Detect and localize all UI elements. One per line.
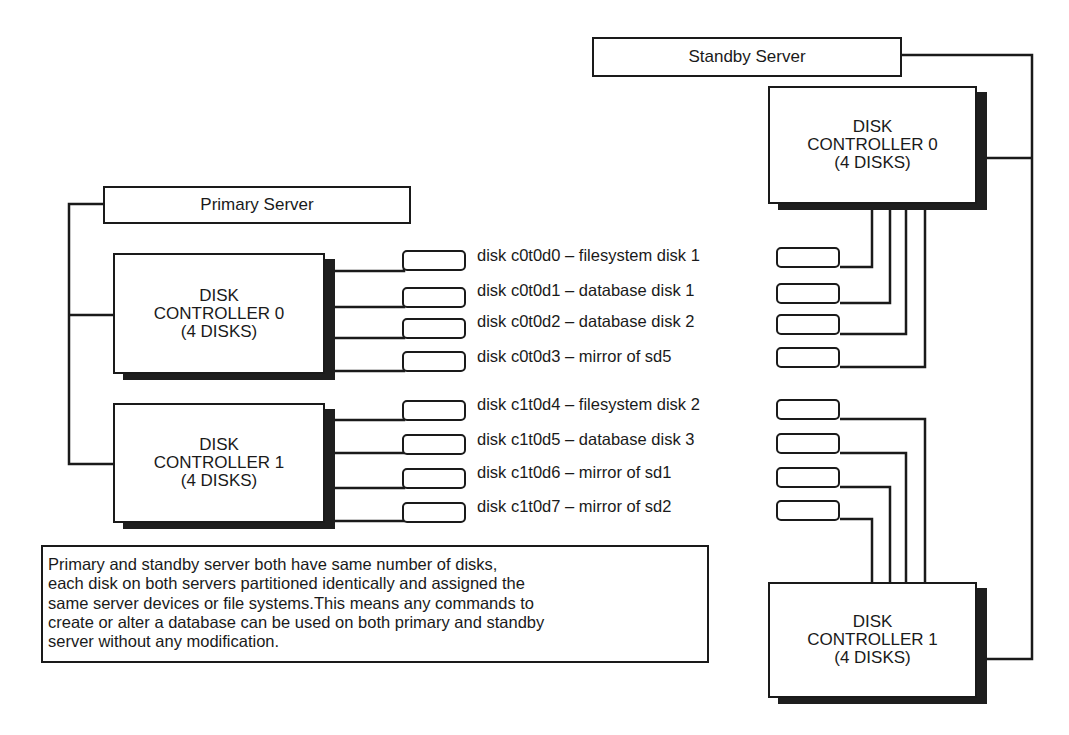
standby-disk-0-icon [776, 247, 840, 268]
primary-disk-5-icon [402, 434, 466, 455]
primary-disk-1-icon [402, 287, 466, 308]
controller-title: DISK [853, 613, 893, 631]
note-line: Primary and standby server both have sam… [48, 555, 701, 574]
standby-disk-1-icon [776, 283, 840, 304]
primary-controller-1: DISK CONTROLLER 1 (4 DISKS) [113, 403, 325, 523]
controller-title: DISK [199, 436, 239, 454]
primary-disk-7-icon [402, 502, 466, 523]
standby-controller-0: DISK CONTROLLER 0 (4 DISKS) [768, 86, 977, 204]
controller-title: DISK [853, 118, 893, 136]
disk-label-c1t0d6: disk c1t0d6 – mirror of sd1 [477, 462, 671, 482]
primary-disk-6-icon [402, 468, 466, 489]
standby-disk-4-icon [776, 399, 840, 420]
controller-name: CONTROLLER 0 [154, 305, 284, 323]
disk-label-c0t0d3: disk c0t0d3 – mirror of sd5 [477, 346, 671, 366]
primary-disk-4-icon [402, 400, 466, 421]
primary-disk-0-icon [402, 250, 466, 271]
standby-disk-5-icon [776, 433, 840, 454]
standby-disk-3-icon [776, 347, 840, 368]
note-line: each disk on both servers partitioned id… [48, 574, 701, 593]
standby-disk-7-icon [776, 500, 840, 521]
primary-server-box: Primary Server [103, 186, 411, 224]
standby-server-box: Standby Server [592, 37, 902, 77]
standby-disk-6-icon [776, 467, 840, 488]
controller-name: CONTROLLER 1 [154, 454, 284, 472]
note-line: server without any modification. [48, 632, 701, 651]
controller-disk-count: (4 DISKS) [834, 649, 911, 667]
primary-disk-3-icon [402, 351, 466, 372]
disk-label-c0t0d1: disk c0t0d1 – database disk 1 [477, 280, 694, 300]
disk-label-c1t0d5: disk c1t0d5 – database disk 3 [477, 429, 694, 449]
controller-name: CONTROLLER 1 [807, 631, 937, 649]
disk-label-c0t0d0: disk c0t0d0 – filesystem disk 1 [477, 245, 700, 265]
note-line: create or alter a database can be used o… [48, 613, 701, 632]
standby-server-label: Standby Server [688, 47, 805, 67]
controller-title: DISK [199, 287, 239, 305]
standby-controller-1: DISK CONTROLLER 1 (4 DISKS) [768, 582, 977, 698]
primary-controller-0: DISK CONTROLLER 0 (4 DISKS) [113, 253, 325, 374]
controller-disk-count: (4 DISKS) [181, 472, 258, 490]
primary-bus-line [69, 204, 113, 464]
disk-label-c1t0d4: disk c1t0d4 – filesystem disk 2 [477, 394, 700, 414]
primary-disk-2-icon [402, 318, 466, 339]
controller-disk-count: (4 DISKS) [834, 154, 911, 172]
controller-disk-count: (4 DISKS) [181, 323, 258, 341]
primary-server-label: Primary Server [200, 195, 313, 215]
disk-label-c0t0d2: disk c0t0d2 – database disk 2 [477, 311, 694, 331]
standby-disk-2-icon [776, 314, 840, 335]
note-line: same server devices or file systems.This… [48, 594, 701, 613]
controller-name: CONTROLLER 0 [807, 136, 937, 154]
disk-label-c1t0d7: disk c1t0d7 – mirror of sd2 [477, 496, 671, 516]
note-box: Primary and standby server both have sam… [41, 545, 709, 663]
